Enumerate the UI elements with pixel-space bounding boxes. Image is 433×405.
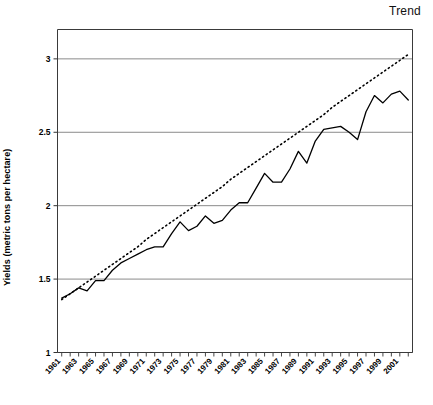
x-tick-label: 1983 bbox=[229, 356, 248, 376]
y-tick-label: 1.5 bbox=[39, 274, 51, 284]
x-tick-label: 1963 bbox=[60, 356, 79, 376]
x-tick-label: 1999 bbox=[365, 356, 384, 376]
x-tick-label: 1969 bbox=[111, 356, 130, 376]
legend-label-trend: Trend bbox=[389, 4, 421, 18]
x-tick-label: 1977 bbox=[179, 356, 198, 376]
y-tick-label: 1 bbox=[46, 348, 51, 358]
x-tick-label: 2001 bbox=[382, 356, 401, 376]
plot-canvas: 11.522.53 196119631965196719691971197319… bbox=[0, 0, 433, 405]
x-tick-labels-group: 1961196319651967196919711973197519771979… bbox=[43, 356, 400, 376]
y-tick-labels-group: 11.522.53 bbox=[39, 54, 51, 358]
x-tick-marks-group bbox=[62, 353, 409, 357]
x-tick-label: 1965 bbox=[77, 356, 96, 376]
x-tick-label: 1979 bbox=[196, 356, 215, 376]
x-tick-label: 1973 bbox=[145, 356, 164, 376]
y-tick-label: 2.5 bbox=[39, 127, 51, 137]
x-tick-label: 1961 bbox=[43, 356, 62, 376]
series-line-trend bbox=[62, 54, 409, 299]
x-tick-label: 1985 bbox=[246, 356, 265, 376]
y-axis-title: Yields (metric tons per hectare) bbox=[2, 268, 12, 286]
series-line-yields bbox=[62, 91, 409, 298]
x-tick-label: 1971 bbox=[128, 356, 147, 376]
x-tick-label: 1989 bbox=[280, 356, 299, 376]
x-tick-label: 1997 bbox=[348, 356, 367, 376]
gridlines-group bbox=[54, 59, 413, 353]
plot-frame bbox=[58, 30, 413, 353]
y-tick-label: 3 bbox=[46, 54, 51, 64]
yields-trend-chart: Trend Yields (metric tons per hectare) 1… bbox=[0, 0, 433, 405]
x-tick-label: 1967 bbox=[94, 356, 113, 376]
x-tick-label: 1975 bbox=[162, 356, 181, 376]
x-tick-label: 1993 bbox=[314, 356, 333, 376]
x-tick-label: 1981 bbox=[213, 356, 232, 376]
y-tick-label: 2 bbox=[46, 201, 51, 211]
x-tick-label: 1991 bbox=[297, 356, 316, 376]
x-tick-label: 1987 bbox=[263, 356, 282, 376]
x-tick-label: 1995 bbox=[331, 356, 350, 376]
